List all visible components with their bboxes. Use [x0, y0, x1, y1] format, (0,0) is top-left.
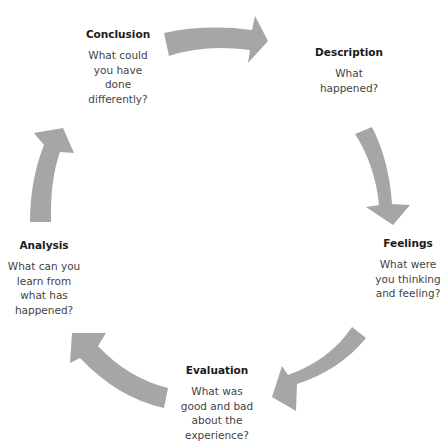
desc-line: What could	[86, 48, 150, 63]
stage-description: Description What happened?	[315, 45, 383, 95]
stage-description-text: What happened?	[315, 66, 383, 95]
stage-description: What could you have done differently?	[86, 48, 150, 106]
arrow-conclusion-to-description	[164, 16, 268, 63]
stage-title: Analysis	[8, 238, 80, 252]
desc-line: happened?	[8, 303, 80, 318]
stage-title: Evaluation	[181, 363, 253, 377]
desc-line: learn from	[8, 274, 80, 289]
desc-line: and feeling?	[375, 286, 440, 301]
stage-title: Feelings	[375, 236, 440, 250]
stage-title: Conclusion	[86, 27, 150, 41]
stage-description: What were you thinking and feeling?	[375, 257, 440, 301]
stage-conclusion: Conclusion What could you have done diff…	[86, 27, 150, 106]
desc-line: you thinking	[375, 272, 440, 287]
stage-analysis: Analysis What can you learn from what ha…	[8, 238, 80, 317]
arrow-evaluation-to-analysis	[70, 333, 168, 408]
desc-line: good and bad	[181, 399, 253, 414]
stage-feelings: Feelings What were you thinking and feel…	[375, 236, 440, 301]
stage-evaluation: Evaluation What was good and bad about t…	[181, 363, 253, 442]
desc-line: differently?	[86, 92, 150, 107]
desc-line: What	[315, 66, 383, 81]
arrow-analysis-to-conclusion	[30, 128, 74, 222]
desc-line: what has	[8, 288, 80, 303]
desc-line: you have	[86, 63, 150, 78]
arrow-feelings-to-evaluation	[272, 327, 366, 411]
stage-description: What was good and bad about the experien…	[181, 384, 253, 442]
desc-line: done	[86, 77, 150, 92]
desc-line: about the	[181, 413, 253, 428]
stage-description: What can you learn from what has happene…	[8, 259, 80, 317]
desc-line: What was	[181, 384, 253, 399]
stage-title: Description	[315, 45, 383, 59]
desc-line: What can you	[8, 259, 80, 274]
arrow-description-to-feelings	[355, 127, 410, 225]
desc-line: happened?	[315, 81, 383, 96]
desc-line: experience?	[181, 428, 253, 443]
desc-line: What were	[375, 257, 440, 272]
